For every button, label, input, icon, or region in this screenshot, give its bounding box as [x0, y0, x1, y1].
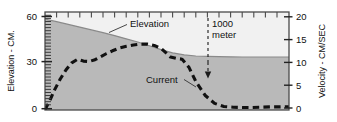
right-tick-label-15: 15	[296, 34, 307, 45]
current-callout-label: Current	[146, 74, 178, 85]
elevation-callout-label: Elevation	[130, 18, 169, 29]
right-tick-label-10: 10	[296, 57, 307, 68]
right-tick-label-0: 0	[296, 103, 301, 114]
right-tick-label-5: 5	[296, 80, 301, 91]
right-axis-title: Velocity - CM/SEC	[317, 23, 327, 98]
left-tick-label-0: 0	[32, 103, 37, 114]
chart-figure: 60 30 0 20 15 10 5 0 Elevation - CM. Vel…	[0, 0, 337, 122]
distance-marker-unit: meter	[212, 29, 236, 40]
right-tick-label-20: 20	[296, 11, 307, 22]
left-tick-label-60: 60	[26, 11, 37, 22]
left-tick-label-30: 30	[26, 56, 37, 67]
chart-canvas: 60 30 0 20 15 10 5 0 Elevation - CM. Vel…	[0, 0, 337, 122]
left-axis-title: Elevation - CM.	[6, 30, 16, 92]
distance-marker-value: 1000	[212, 18, 233, 29]
